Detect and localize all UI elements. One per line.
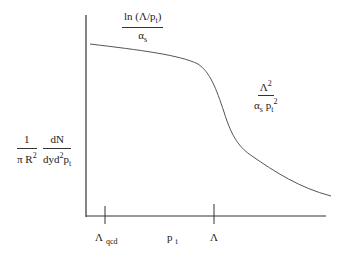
diagram-canvas [0,0,345,258]
x-axis-label: pt [167,232,178,246]
log-numerator: ln (Λ/pt) [122,11,163,28]
prefactor-numerator: 1 [22,134,32,148]
derivative-numerator: dN [48,134,65,148]
tick-label-lambda: Λ [210,232,218,243]
y-label-prefactor: 1 π R2 [17,134,37,165]
spectrum-curve [90,44,331,196]
power-numerator: Λ2 [258,80,274,96]
derivative-denominator: dyd2pt [43,148,71,168]
prefactor-denominator: π R2 [17,148,37,165]
annotation-log-region: ln (Λ/pt) αs [122,11,163,44]
tick-label-lambda-qcd: Λqcd [95,232,118,246]
annotation-power-region: Λ2 αs pt2 [254,80,277,114]
log-denominator: αs [138,28,147,44]
power-denominator: αs pt2 [254,96,277,114]
y-label-derivative: dN dyd2pt [43,134,71,168]
